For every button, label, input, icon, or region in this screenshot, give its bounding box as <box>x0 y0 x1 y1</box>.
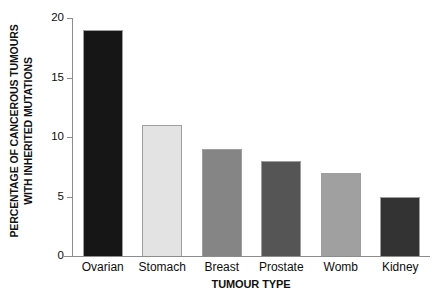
x-axis-category-labels: OvarianStomachBreastProstateWombKidney <box>73 259 430 277</box>
y-axis-tick: 20 <box>32 18 72 19</box>
plot-area: 05101520 <box>72 18 430 256</box>
y-axis-tick-mark <box>67 137 72 138</box>
y-axis-title-text: PERCENTAGE OF CANCEROUS TUMOURS WITH INH… <box>7 24 35 237</box>
x-axis-line <box>64 256 430 257</box>
x-axis-title: TUMOUR TYPE <box>72 278 430 290</box>
y-axis-tick-label: 10 <box>51 129 64 144</box>
y-axis-tick-label: 5 <box>58 189 64 204</box>
x-axis-category-label: Kidney <box>371 259 430 277</box>
y-axis-tick-mark <box>67 197 72 198</box>
y-axis-tick-mark <box>67 18 72 19</box>
bar-slot <box>371 18 430 256</box>
y-axis-tick-label: 15 <box>51 70 64 85</box>
bar-slot <box>133 18 192 256</box>
y-axis-tick-mark <box>67 78 72 79</box>
y-axis-title: PERCENTAGE OF CANCEROUS TUMOURS WITH INH… <box>0 0 42 262</box>
x-axis-category-label: Stomach <box>133 259 192 277</box>
bar-slot <box>311 18 370 256</box>
bar-chart: PERCENTAGE OF CANCEROUS TUMOURS WITH INH… <box>0 0 442 306</box>
bar-group <box>73 18 430 256</box>
y-axis-tick-mark <box>67 256 72 257</box>
bar-stomach[interactable] <box>142 125 182 256</box>
bar-ovarian[interactable] <box>83 30 123 256</box>
bar-slot <box>192 18 251 256</box>
y-axis-tick-label: 0 <box>58 248 64 263</box>
x-axis-category-label: Womb <box>311 259 370 277</box>
y-axis-title-line-2: WITH INHERITED MUTATIONS <box>21 24 35 237</box>
bar-womb[interactable] <box>321 173 361 256</box>
y-axis-tick: 15 <box>32 78 72 79</box>
bar-breast[interactable] <box>202 149 242 256</box>
x-axis-category-label: Prostate <box>252 259 311 277</box>
bar-slot <box>73 18 132 256</box>
bar-slot <box>252 18 311 256</box>
y-axis-tick-label: 20 <box>51 10 64 25</box>
bar-prostate[interactable] <box>261 161 301 256</box>
x-axis-category-label: Breast <box>192 259 251 277</box>
y-axis-tick: 0 <box>32 256 72 257</box>
y-axis-tick: 10 <box>32 137 72 138</box>
x-axis-category-label: Ovarian <box>73 259 132 277</box>
y-axis-title-line-1: PERCENTAGE OF CANCEROUS TUMOURS <box>7 24 21 237</box>
y-axis-tick: 5 <box>32 197 72 198</box>
bar-kidney[interactable] <box>380 197 420 257</box>
